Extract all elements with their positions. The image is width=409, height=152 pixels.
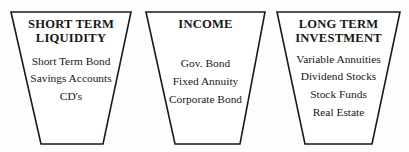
category-item: Short Term Bond [11, 53, 131, 71]
category-item: Fixed Annuity [146, 73, 265, 91]
category-item: Gov. Bond [146, 55, 265, 73]
category-group-income: INCOME Gov. Bond Fixed Annuity Corporate… [146, 17, 265, 108]
category-item-list-long-term-investment: Variable Annuities Dividend Stocks Stock… [277, 51, 400, 121]
category-group-short-term-liquidity: SHORT TERM LIQUIDITY Short Term Bond Sav… [11, 17, 131, 106]
category-item: Real Estate [277, 104, 400, 122]
category-title-short-term-liquidity: SHORT TERM LIQUIDITY [11, 17, 131, 46]
category-item-list-short-term-liquidity: Short Term Bond Savings Accounts CD's [11, 53, 131, 106]
category-item: Dividend Stocks [277, 68, 400, 86]
category-title-long-term-investment: LONG TERM INVESTMENT [277, 17, 400, 46]
category-item: Variable Annuities [277, 51, 400, 69]
category-item: Stock Funds [277, 86, 400, 104]
category-title-line: LIQUIDITY [11, 31, 131, 45]
category-title-line: INCOME [146, 17, 265, 31]
category-title-line: SHORT TERM [11, 17, 131, 31]
category-item: Corporate Bond [146, 91, 265, 109]
category-item: Savings Accounts [11, 70, 131, 88]
investment-categories-diagram: SHORT TERM LIQUIDITY Short Term Bond Sav… [0, 0, 409, 152]
category-title-line: LONG TERM [277, 17, 400, 31]
category-group-long-term-investment: LONG TERM INVESTMENT Variable Annuities … [277, 17, 400, 121]
category-title-income: INCOME [146, 17, 265, 31]
category-item-list-income: Gov. Bond Fixed Annuity Corporate Bond [146, 55, 265, 108]
category-title-line: INVESTMENT [277, 31, 400, 45]
category-item: CD's [11, 88, 131, 106]
funnel-text-layer: SHORT TERM LIQUIDITY Short Term Bond Sav… [0, 0, 409, 152]
